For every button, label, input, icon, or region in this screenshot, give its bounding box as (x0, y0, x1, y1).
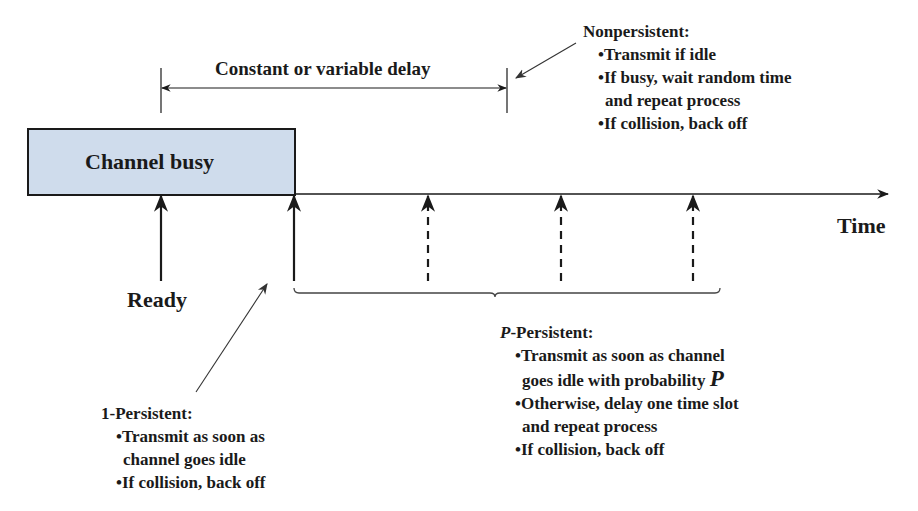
channel-busy-label: Channel busy (85, 149, 214, 175)
one-persistent-item: channel goes idle (101, 448, 266, 471)
nonpersistent-pointer (516, 43, 576, 78)
one-persistent-pointer (196, 284, 267, 392)
p-persistent-item: •Otherwise, delay one time slot (500, 392, 739, 415)
nonpersistent-item: and repeat process (583, 89, 791, 112)
nonpersistent-item: •Transmit if idle (583, 43, 791, 66)
ready-label: Ready (127, 287, 187, 313)
one-persistent-item: •If collision, back off (101, 471, 266, 494)
one-persistent-description: 1-Persistent: •Transmit as soon as chann… (101, 402, 266, 494)
nonpersistent-description: Nonpersistent: •Transmit if idle •If bus… (583, 20, 791, 135)
p-persistent-item-text: goes idle with probability (522, 371, 710, 390)
nonpersistent-item: •If collision, back off (583, 112, 791, 135)
nonpersistent-title: Nonpersistent: (583, 20, 791, 43)
p-persistent-title-text: -Persistent: (510, 323, 593, 342)
p-persistent-item: and repeat process (500, 415, 739, 438)
time-label: Time (837, 213, 885, 239)
one-persistent-item: •Transmit as soon as (101, 425, 266, 448)
p-persistent-brace (294, 288, 720, 297)
delay-label: Constant or variable delay (215, 58, 431, 80)
p-symbol: P (710, 366, 724, 391)
p-persistent-item: •If collision, back off (500, 438, 739, 461)
p-symbol: P (500, 323, 510, 342)
one-persistent-title: 1-Persistent: (101, 402, 266, 425)
p-persistent-title: P-Persistent: (500, 321, 739, 344)
p-persistent-description: P-Persistent: •Transmit as soon as chann… (500, 321, 739, 461)
p-persistent-item: •Transmit as soon as channel (500, 344, 739, 367)
p-persistent-item: goes idle with probability P (500, 367, 739, 392)
channel-busy-box: Channel busy (27, 128, 296, 196)
nonpersistent-item: •If busy, wait random time (583, 66, 791, 89)
